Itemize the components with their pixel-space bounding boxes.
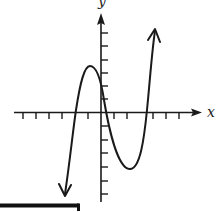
y-axis-label: y	[97, 0, 107, 9]
x-axis	[14, 113, 196, 120]
bottom-bar	[0, 204, 80, 212]
function-graph: x y	[0, 0, 220, 211]
x-axis-label: x	[207, 104, 215, 120]
y-axis	[101, 18, 108, 202]
